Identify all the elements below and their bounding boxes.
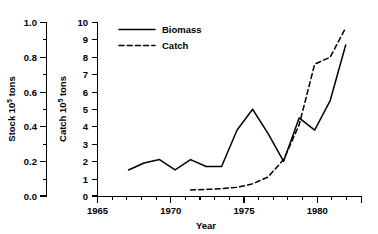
y-right-title-unit: tons	[57, 76, 68, 99]
legend-label-biomass: Biomass	[162, 24, 202, 35]
y-axis-right-title: Catch 105 tons	[57, 76, 69, 142]
y-right-tick-label: 7	[83, 69, 88, 80]
x-tick-label: 1980	[307, 205, 328, 216]
y-left-tick-label: 1.0	[24, 17, 37, 28]
y-right-title-base: Catch 10	[57, 102, 68, 142]
y-axis-right-tick-labels: 10 9 8 7 6 5 4 3 2 1 0	[77, 17, 88, 202]
y-right-tick-label: 6	[83, 87, 88, 98]
line-chart: 1.0 0.8 0.6 0.4 0.2 0.0 Stock 105 tons	[0, 0, 378, 234]
y-left-tick-label: 0.6	[24, 87, 37, 98]
y-right-tick-label: 1	[83, 174, 89, 185]
y-left-tick-label: 0.0	[24, 191, 37, 202]
y-right-tick-label: 10	[77, 17, 88, 28]
series-line-biomass	[129, 45, 346, 170]
y-axis-left: 1.0 0.8 0.6 0.4 0.2 0.0 Stock 105 tons	[6, 17, 47, 202]
y-right-tick-label: 5	[83, 104, 89, 115]
y-left-tick-label: 0.2	[24, 156, 37, 167]
y-axis-right-ticks	[92, 23, 98, 197]
y-right-tick-label: 3	[83, 139, 88, 150]
legend-label-catch: Catch	[162, 40, 189, 51]
y-axis-left-title: Stock 105 tons	[6, 76, 18, 141]
x-axis: 1965 1970 1975 1980 Year	[87, 197, 362, 232]
x-axis-ticks	[98, 197, 362, 204]
y-axis-right: 10 9 8 7 6 5 4 3 2 1 0 Catch 105 tons	[57, 17, 98, 202]
chart-figure: 1.0 0.8 0.6 0.4 0.2 0.0 Stock 105 tons	[0, 0, 378, 234]
y-right-tick-label: 2	[83, 156, 88, 167]
x-tick-label: 1965	[87, 205, 109, 216]
x-tick-label: 1975	[233, 205, 255, 216]
y-left-tick-label: 0.8	[24, 52, 37, 63]
y-left-tick-label: 0.4	[24, 121, 38, 132]
legend-item-biomass[interactable]: Biomass	[119, 24, 202, 35]
x-tick-label: 1970	[160, 205, 181, 216]
y-right-tick-label: 8	[83, 52, 88, 63]
series-line-catch	[191, 28, 346, 190]
y-axis-left-tick-labels: 1.0 0.8 0.6 0.4 0.2 0.0	[24, 17, 38, 202]
y-right-tick-label: 0	[83, 191, 88, 202]
chart-legend: Biomass Catch	[119, 24, 202, 51]
y-axis-left-ticks	[40, 23, 47, 197]
series-layer	[129, 28, 346, 190]
x-axis-tick-labels: 1965 1970 1975 1980	[87, 205, 328, 216]
svg-text:Stock 105 tons: Stock 105 tons	[6, 76, 18, 141]
svg-text:Catch 105 tons: Catch 105 tons	[57, 76, 69, 142]
y-left-title-unit: tons	[6, 76, 17, 99]
x-axis-title: Year	[196, 220, 216, 231]
legend-item-catch[interactable]: Catch	[119, 40, 189, 51]
y-left-title-base: Stock 10	[6, 103, 17, 142]
y-right-tick-label: 9	[83, 34, 88, 45]
y-right-tick-label: 4	[83, 121, 89, 132]
